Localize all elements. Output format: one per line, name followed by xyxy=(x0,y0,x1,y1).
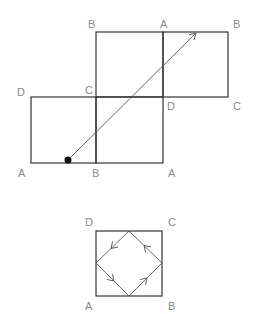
diamond-edge-arrow xyxy=(146,247,163,263)
start-dot-icon xyxy=(65,157,72,164)
top-labels: B A B D C D C A B A xyxy=(17,18,241,179)
geometry-diagram: B A B D C D C A B A D C A B xyxy=(0,0,254,314)
straight-path xyxy=(65,33,197,164)
left-square xyxy=(31,97,96,163)
bottom-square xyxy=(96,231,162,296)
right-square xyxy=(163,32,228,97)
vertex-label: A xyxy=(160,18,168,30)
vertex-label: B xyxy=(92,167,99,179)
vertex-label: A xyxy=(85,300,93,312)
diamond-edge-arrow xyxy=(129,280,146,297)
diamond-edge-arrow xyxy=(113,231,130,247)
vertex-label: C xyxy=(168,216,176,228)
top-middle-square xyxy=(96,32,163,97)
billiard-square xyxy=(96,231,162,296)
vertex-label: A xyxy=(18,167,26,179)
vertex-label: C xyxy=(233,100,241,112)
vertex-label: B xyxy=(233,18,240,30)
vertex-label: B xyxy=(88,18,95,30)
bottom-middle-square xyxy=(96,97,163,163)
vertex-label: D xyxy=(85,216,93,228)
vertex-label: B xyxy=(168,300,175,312)
diamond-edge-arrow xyxy=(96,263,113,280)
unfolded-squares xyxy=(31,32,228,163)
vertex-label: C xyxy=(85,84,93,96)
vertex-label: D xyxy=(17,86,25,98)
vertex-label: A xyxy=(168,167,176,179)
vertex-label: D xyxy=(167,100,175,112)
